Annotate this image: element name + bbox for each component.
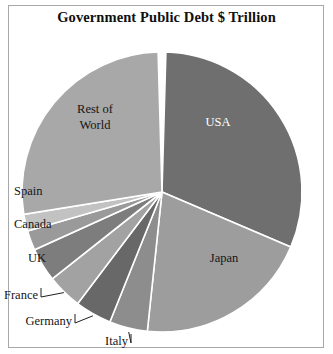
pie-slices-group [22,52,302,332]
pie-slice-rest-of-world[interactable] [22,52,162,214]
pie-leader-line-germany [75,314,93,323]
pie-label-usa: USA [205,115,230,129]
pie-leader-line-italy [129,332,131,343]
pie-label-rest-of-world-line1: Rest of [77,102,114,116]
chart-container: Government Public Debt $ Trillion USA Ja… [0,0,333,354]
pie-label-germany: Germany [25,314,72,328]
pie-label-uk: UK [28,251,46,265]
pie-label-rest-of-world-line2: World [80,118,112,132]
pie-label-japan: Japan [210,251,239,265]
pie-label-france: France [4,288,38,302]
pie-label-canada: Canada [14,217,52,231]
pie-chart: USA Japan Italy Germany France UK Canada… [0,0,333,354]
pie-label-spain: Spain [14,184,43,198]
pie-label-italy: Italy [105,334,129,348]
